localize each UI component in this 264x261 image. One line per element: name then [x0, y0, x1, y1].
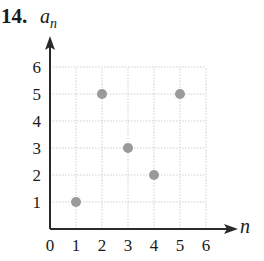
sequence-scatter-plot: 14. an 0123456123456 n: [0, 0, 264, 261]
y-tick-label: 2: [33, 166, 42, 185]
y-tick-label: 6: [33, 58, 42, 77]
x-tick-label: 4: [150, 236, 159, 255]
x-tick-label: 0: [46, 236, 55, 255]
y-tick-label: 5: [33, 85, 42, 104]
x-axis-label: n: [240, 215, 250, 237]
data-point: [123, 143, 133, 153]
tick-labels: 0123456123456: [33, 58, 211, 255]
y-tick-label: 4: [33, 112, 42, 131]
y-axis-subscript: n: [50, 16, 57, 31]
y-tick-label: 1: [33, 193, 42, 212]
data-point: [97, 89, 107, 99]
x-tick-label: 2: [98, 236, 107, 255]
data-point: [149, 170, 159, 180]
x-tick-label: 5: [176, 236, 185, 255]
data-point: [71, 197, 81, 207]
y-axis-var: a: [40, 5, 50, 27]
data-point: [175, 89, 185, 99]
y-tick-label: 3: [33, 139, 42, 158]
x-tick-label: 6: [202, 236, 211, 255]
x-tick-label: 1: [72, 236, 81, 255]
problem-number: 14.: [1, 4, 27, 28]
y-axis-label: an: [40, 5, 57, 31]
x-tick-label: 3: [124, 236, 133, 255]
